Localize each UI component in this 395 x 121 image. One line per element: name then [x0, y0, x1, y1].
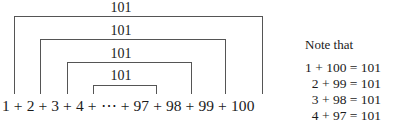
bracket-label-1: 101 [91, 1, 151, 15]
equation-row: 1 + 100 = 101 [305, 60, 381, 76]
bracket-label-2: 101 [91, 24, 151, 38]
bracket-label-3: 101 [91, 47, 151, 61]
equation-row: 2 + 99 = 101 [305, 76, 381, 92]
sum-expression: 1 + 2 + 3 + 4 + ⋯ + 97 + 98 + 99 + 100 [2, 97, 254, 115]
note-title: Note that [305, 37, 353, 53]
equation-row: 3 + 98 = 101 [305, 92, 381, 108]
bracket-label-4: 101 [91, 69, 151, 83]
equation-row: 4 + 97 = 101 [305, 108, 381, 121]
note-equations: 1 + 100 = 101 2 + 99 = 101 3 + 98 = 101 … [305, 60, 381, 121]
pair-bracket-4-97 [93, 85, 157, 94]
